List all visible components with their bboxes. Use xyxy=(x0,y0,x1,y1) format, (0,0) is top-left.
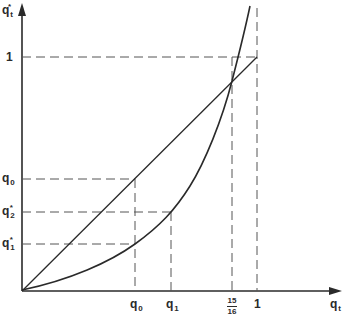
y-tick-q2star: q2* xyxy=(2,205,13,217)
x-tick-q0: q0 xyxy=(130,298,143,310)
diagonal-line xyxy=(22,57,257,291)
y-axis-arrow-icon xyxy=(18,3,26,16)
y-tick-q1star: q1* xyxy=(2,237,13,249)
y-axis-label: qt* xyxy=(2,4,11,16)
y-tick-q0: q0 xyxy=(2,172,15,184)
x-tick-1: 1 xyxy=(254,298,261,310)
x-tick-15-16: 15 16 xyxy=(227,297,237,316)
x-axis-label: qt xyxy=(330,298,341,310)
plot-canvas xyxy=(0,0,349,319)
diagram: qt* 1 q0 q2* q1* q0 q1 15 16 1 qt xyxy=(0,0,349,319)
y-tick-1: 1 xyxy=(6,51,13,63)
x-axis-arrow-icon xyxy=(329,287,342,295)
convex-curve xyxy=(22,6,250,290)
x-tick-q1: q1 xyxy=(166,298,179,310)
